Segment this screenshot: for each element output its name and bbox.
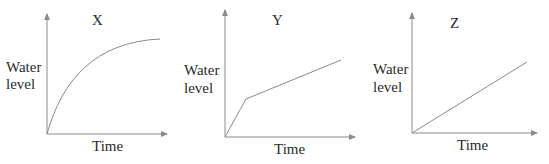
graph-x [47,14,167,134]
graph-y-ylabel-line2: level [184,80,213,97]
graph-z-xlabel: Time [457,137,488,154]
graph-x-ylabel-line1: Water [6,59,41,76]
graph-z-curve [412,62,527,133]
graph-z-ylabel-line1: Water [373,61,408,78]
graph-x-xlabel: Time [92,138,123,155]
graph-y-title: Y [272,12,283,29]
graph-z-title: Z [450,15,459,32]
graph-z [412,13,537,133]
graph-y-ylabel-line1: Water [184,62,219,79]
graph-x-title: X [92,12,103,29]
graph-x-ylabel-line2: level [6,76,35,93]
graph-y [225,10,355,137]
graph-x-curve [47,39,160,134]
graph-y-curve [225,60,341,137]
graph-y-xlabel: Time [274,141,305,158]
graph-z-ylabel-line2: level [373,79,402,96]
